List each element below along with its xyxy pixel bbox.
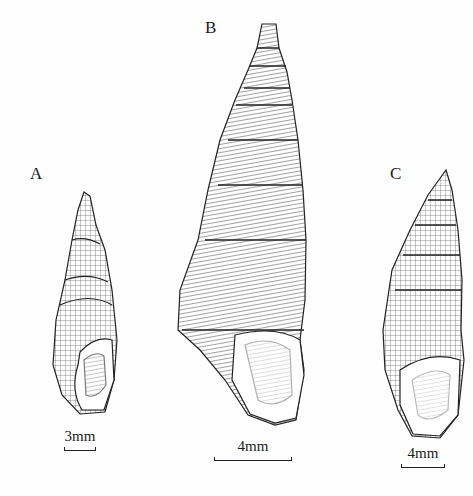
shell-b <box>178 24 306 425</box>
scale-line-c <box>401 464 445 468</box>
panel-label-c: C <box>390 164 401 184</box>
scale-line-b <box>214 457 292 461</box>
scale-text-b: 4mm <box>213 438 293 455</box>
panel-label-a: A <box>30 164 42 184</box>
shell-illustrations <box>0 0 473 496</box>
scale-text-a: 3mm <box>60 428 100 445</box>
shell-a <box>53 192 117 414</box>
scale-bar-c: 4mm <box>399 445 447 468</box>
scale-bar-b: 4mm <box>213 438 293 461</box>
scale-bar-a: 3mm <box>60 428 100 451</box>
scale-text-c: 4mm <box>399 445 447 462</box>
panel-label-b: B <box>205 18 216 38</box>
shell-c <box>383 170 464 438</box>
scale-line-a <box>64 447 96 451</box>
